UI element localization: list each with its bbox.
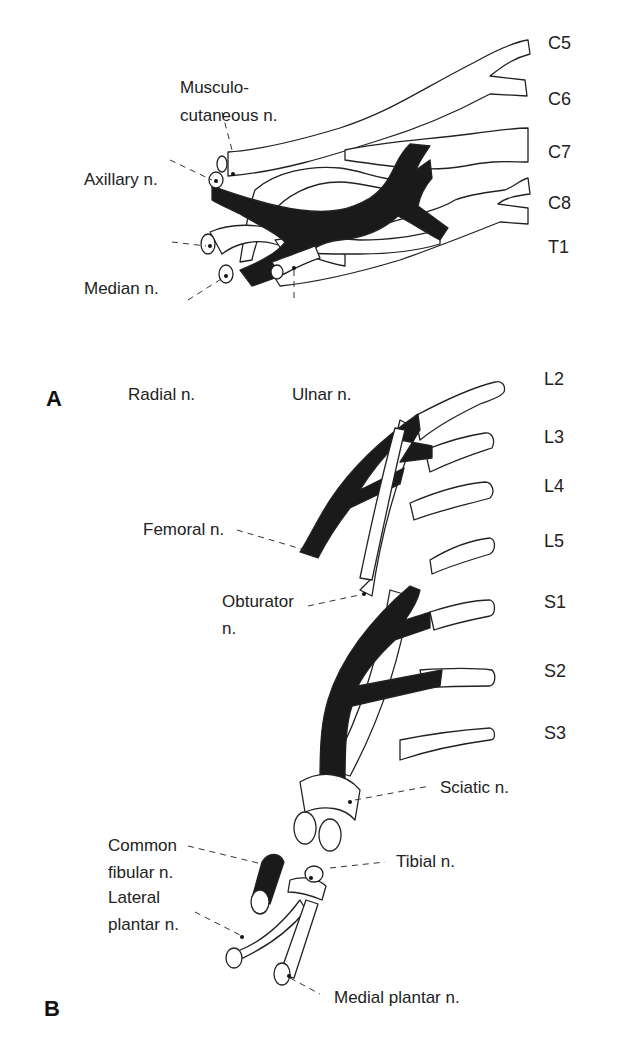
root-label-l4: L4 <box>544 475 564 498</box>
root-label-c6: C6 <box>548 88 571 111</box>
label-tibial: Tibial n. <box>396 850 455 873</box>
panel-letter-a: A <box>46 386 62 412</box>
musculocutaneous-end <box>217 156 227 172</box>
lateral-plantar-end <box>226 948 242 968</box>
median-end <box>201 234 215 254</box>
label-obturator-line2: n. <box>222 617 236 640</box>
root-label-l2: L2 <box>544 368 564 391</box>
ulnar-end <box>271 265 283 279</box>
root-label-s3: S3 <box>544 722 566 745</box>
root-L4 <box>410 482 493 520</box>
label-radial: Radial n. <box>128 383 195 406</box>
root-label-s2: S2 <box>544 660 566 683</box>
label-lateral-plantar-line2: plantar n. <box>108 913 179 936</box>
root-label-s1: S1 <box>544 591 566 614</box>
label-ulnar: Ulnar n. <box>292 383 352 406</box>
tibial-sheath <box>288 878 326 900</box>
nerve-plexus-illustration <box>0 0 627 1039</box>
label-lateral-plantar-line1: Lateral <box>108 886 160 909</box>
label-musculocutaneous-line1: Musculo- <box>180 76 249 99</box>
label-medial-plantar: Medial plantar n. <box>334 986 460 1009</box>
femoral-nerve <box>300 414 432 558</box>
sciatic-posterior <box>320 586 442 784</box>
label-obturator-line1: Obturator <box>222 590 294 613</box>
root-label-c5: C5 <box>548 32 571 55</box>
root-S3 <box>400 728 495 760</box>
panel-letter-b: B <box>44 996 60 1022</box>
root-L5 <box>430 538 495 574</box>
label-axillary: Axillary n. <box>84 168 158 191</box>
label-common-fibular-line1: Common <box>108 834 177 857</box>
root-label-t1: T1 <box>548 236 569 259</box>
root-label-l3: L3 <box>544 426 564 449</box>
tibial-top <box>305 866 323 882</box>
common-fibular-end <box>251 890 269 914</box>
label-musculocutaneous-line2: cutaneous n. <box>180 104 277 127</box>
label-femoral: Femoral n. <box>143 518 224 541</box>
sciatic-end-right <box>319 819 341 851</box>
label-sciatic: Sciatic n. <box>440 776 509 799</box>
root-L2 <box>415 382 505 440</box>
root-label-l5: L5 <box>544 530 564 553</box>
brachial-plexus-drawing <box>201 40 530 286</box>
root-label-c8: C8 <box>548 192 571 215</box>
medial-plantar-end <box>274 963 290 985</box>
root-label-c7: C7 <box>548 141 571 164</box>
label-median: Median n. <box>84 277 159 300</box>
root-S1 <box>430 600 495 630</box>
sciatic-end-left <box>294 812 316 844</box>
lumbosacral-plexus-drawing <box>226 382 505 985</box>
label-common-fibular-line2: fibular n. <box>108 861 173 884</box>
root-L3 <box>425 433 494 472</box>
